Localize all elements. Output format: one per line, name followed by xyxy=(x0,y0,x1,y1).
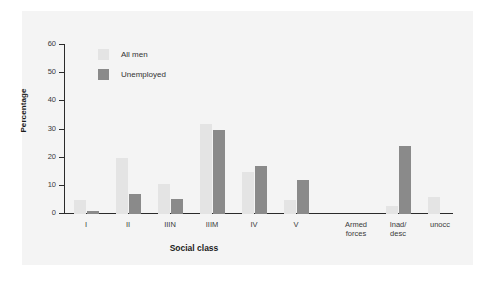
bar-all-men[interactable] xyxy=(158,184,170,214)
bar-all-men[interactable] xyxy=(116,158,128,214)
x-axis-category-label: V xyxy=(270,220,322,229)
y-axis-tick-label-text: 0 xyxy=(34,209,56,217)
y-axis-tick-label-text: 40 xyxy=(34,96,56,104)
bar-all-men[interactable] xyxy=(200,124,212,214)
y-axis-title: Percentage xyxy=(19,71,28,151)
x-axis-category-label: unocc xyxy=(414,220,466,229)
chart-legend: All men Unemployed xyxy=(98,44,166,84)
bar-group xyxy=(200,44,225,214)
bar-all-men[interactable] xyxy=(74,200,86,214)
bar-group-bars xyxy=(242,44,267,214)
bar-unemployed[interactable] xyxy=(399,146,411,214)
y-axis-tick-label: 0 xyxy=(32,209,56,217)
bar-unemployed[interactable] xyxy=(171,199,183,214)
y-axis-tick-label-text: 20 xyxy=(34,153,56,161)
y-axis-tick-label: 60 xyxy=(32,40,56,48)
y-axis-tick-label-text: 60 xyxy=(34,40,56,48)
bar-chart-figure: Percentage Social class 0102030405060 II… xyxy=(0,0,495,281)
bar-group-bars xyxy=(284,44,309,214)
bar-group-bars xyxy=(200,44,225,214)
bar-unemployed[interactable] xyxy=(129,194,141,214)
bar-group-bars xyxy=(74,44,99,214)
bar-group-bars xyxy=(386,44,411,214)
y-axis-tick-label: 20 xyxy=(32,153,56,161)
bar-all-men[interactable] xyxy=(428,197,440,214)
legend-label-unemployed: Unemployed xyxy=(121,70,166,79)
legend-item-unemployed: Unemployed xyxy=(98,64,166,84)
y-axis-tick-label-text: 50 xyxy=(34,68,56,76)
bar-all-men[interactable] xyxy=(386,206,398,214)
bar-unemployed[interactable] xyxy=(255,166,267,214)
bar-unemployed[interactable] xyxy=(213,130,225,215)
legend-item-all-men: All men xyxy=(98,44,166,64)
bar-all-men[interactable] xyxy=(284,200,296,214)
y-axis-tick-label: 10 xyxy=(32,181,56,189)
legend-label-all-men: All men xyxy=(121,50,148,59)
bar-group xyxy=(428,44,453,214)
bar-unemployed[interactable] xyxy=(87,211,99,214)
x-axis-title: Social class xyxy=(64,243,324,253)
bar-group xyxy=(242,44,267,214)
bar-group xyxy=(344,44,369,214)
y-axis-tick-label: 40 xyxy=(32,96,56,104)
legend-swatch-unemployed-icon xyxy=(98,69,109,80)
bar-group xyxy=(74,44,99,214)
y-axis-tick-label: 30 xyxy=(32,125,56,133)
y-axis-tick-label: 50 xyxy=(32,68,56,76)
bar-unemployed[interactable] xyxy=(297,180,309,214)
bar-group xyxy=(284,44,309,214)
bar-group-bars xyxy=(428,44,453,214)
y-axis-tick-label-text: 30 xyxy=(34,125,56,133)
y-axis-tick-label-text: 10 xyxy=(34,181,56,189)
bar-group xyxy=(386,44,411,214)
bar-all-men[interactable] xyxy=(242,172,254,214)
legend-swatch-all-men-icon xyxy=(98,49,109,60)
bar-group-bars xyxy=(344,44,369,214)
